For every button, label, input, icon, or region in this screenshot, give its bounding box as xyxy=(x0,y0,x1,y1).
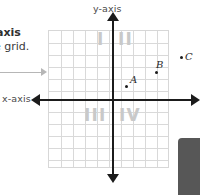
point-a-marker xyxy=(125,85,128,88)
grid-line-horizontal xyxy=(49,91,168,92)
x-axis-label: x-axis xyxy=(2,93,31,104)
x-axis-line xyxy=(35,99,195,101)
quadrant-label-right-lower: IV xyxy=(119,105,141,125)
y-axis-line xyxy=(112,18,114,177)
grid-line-horizontal xyxy=(49,148,168,149)
grid-line-horizontal xyxy=(49,43,168,44)
pointer-arrow-icon xyxy=(41,68,47,76)
corner-block xyxy=(178,138,200,195)
grid-line-horizontal xyxy=(49,124,168,125)
grid-line-horizontal xyxy=(49,55,168,56)
point-a-label: A xyxy=(130,74,137,85)
grid-line-horizontal xyxy=(49,79,168,80)
point-b-label: B xyxy=(156,59,163,70)
quadrant-label-left-upper: I xyxy=(97,29,105,49)
point-b-marker xyxy=(155,71,158,74)
quadrant-label-right-upper: II xyxy=(118,29,133,49)
grid-line-horizontal xyxy=(49,112,168,113)
y-axis-arrow-down-icon xyxy=(107,174,119,183)
pointer-line xyxy=(0,72,44,73)
coordinate-plane-diagram: I II III IV y-axis x-axis A B C axis e g… xyxy=(0,0,200,195)
grid-line-horizontal xyxy=(49,160,168,161)
grid-line-horizontal xyxy=(49,136,168,137)
point-c-label: C xyxy=(185,51,193,62)
y-axis-label: y-axis xyxy=(93,3,122,14)
x-axis-arrow-right-icon xyxy=(191,94,200,106)
quadrant-label-left-lower: III xyxy=(84,105,107,125)
grid-line-horizontal xyxy=(49,67,168,68)
caption-subtitle: e grid. xyxy=(0,40,29,53)
caption-title: axis xyxy=(0,26,21,39)
x-axis-arrow-left-icon xyxy=(31,94,40,106)
point-c-marker xyxy=(180,56,183,59)
